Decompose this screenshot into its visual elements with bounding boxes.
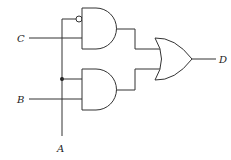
and-gate-1	[82, 8, 116, 49]
label-b: B	[16, 94, 24, 105]
label-c: C	[17, 33, 25, 44]
or-gate	[155, 38, 192, 80]
label-d: D	[218, 54, 227, 65]
inverter-bubble	[76, 16, 82, 22]
and-gate-2	[82, 69, 116, 110]
logic-circuit-diagram: C B A D	[0, 0, 231, 160]
label-a: A	[56, 143, 64, 154]
